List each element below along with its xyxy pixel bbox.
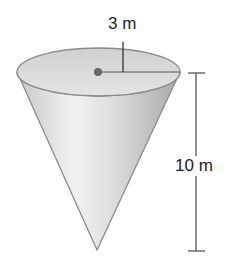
cone-body	[17, 72, 180, 250]
radius-label: 3 m	[108, 14, 136, 34]
height-label: 10 m	[174, 156, 214, 176]
cone-diagram: 3 m 10 m	[0, 0, 228, 260]
center-dot	[94, 68, 102, 76]
cone-drawing	[0, 0, 228, 260]
